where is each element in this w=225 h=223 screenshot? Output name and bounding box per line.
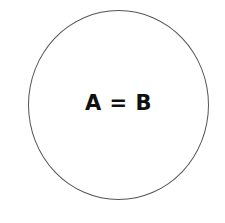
equation-label: A = B — [28, 90, 209, 116]
diagram-canvas: A = B — [0, 0, 225, 223]
